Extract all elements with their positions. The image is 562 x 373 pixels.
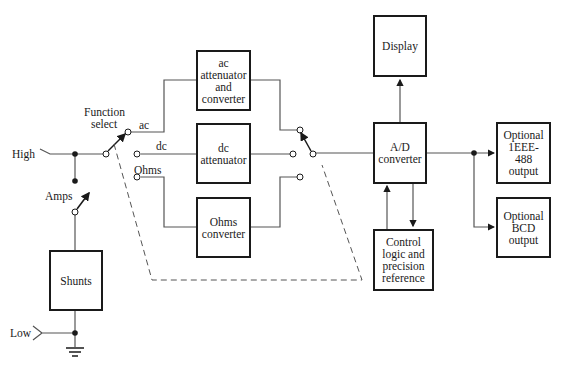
ac-path-label: ac xyxy=(139,119,149,131)
dc-path-label: dc xyxy=(156,140,167,152)
high-junction-dot xyxy=(72,151,78,157)
block-text: and xyxy=(201,81,247,93)
display-block: Display xyxy=(373,15,427,77)
amps-switch-pivot xyxy=(72,209,78,215)
low-input-lead xyxy=(33,326,75,340)
wiring-layer xyxy=(0,0,562,373)
block-text: attenuator xyxy=(201,69,247,81)
block-text: converter xyxy=(378,153,421,165)
control-logic-block: Control logic and precision reference xyxy=(373,229,434,291)
ieee-488-output-block: Optional 1EEE- 488 output xyxy=(496,122,551,184)
label-line: Function xyxy=(84,106,124,118)
block-text: dc xyxy=(201,142,247,154)
block-text: 1EEE- xyxy=(503,141,543,153)
block-text: attenuator xyxy=(201,154,247,166)
output-select-blade xyxy=(301,133,311,151)
block-text: Optional xyxy=(503,129,543,141)
block-text: Shunts xyxy=(60,275,91,287)
function-select-blade xyxy=(108,134,125,151)
block-text: output xyxy=(503,165,543,177)
amps-contact-dot xyxy=(72,178,78,184)
block-text: converter xyxy=(201,93,247,105)
block-text: A/D xyxy=(378,141,421,153)
block-text: ac xyxy=(201,57,247,69)
low-junction-dot xyxy=(72,330,78,336)
block-text: Optional xyxy=(503,210,543,222)
block-text: Display xyxy=(382,40,418,52)
amps-switch-blade xyxy=(77,193,89,209)
block-text: output xyxy=(503,234,543,246)
block-text: converter xyxy=(202,228,245,240)
block-text: precision xyxy=(382,260,425,272)
function-select-pivot xyxy=(103,151,109,157)
block-text: Ohms xyxy=(202,216,245,228)
amps-label: Amps xyxy=(45,190,72,202)
block-text: BCD xyxy=(503,222,543,234)
ohms-converter-block: Ohms converter xyxy=(196,197,251,258)
high-input-lead xyxy=(40,149,103,154)
output-select-pivot xyxy=(310,151,316,157)
label-line: select xyxy=(84,118,124,130)
block-text: logic and xyxy=(382,248,425,260)
ground-icon xyxy=(66,348,84,356)
function-select-label: Function select xyxy=(84,106,124,130)
ac-attenuator-converter-block: ac attenuator and converter xyxy=(196,50,251,111)
block-text: Control xyxy=(382,236,425,248)
output-junction-dot xyxy=(471,150,477,156)
ad-converter-block: A/D converter xyxy=(373,122,427,184)
bcd-output-block: Optional BCD output xyxy=(496,197,551,258)
block-text: 488 xyxy=(503,153,543,165)
dc-attenuator-block: dc attenuator xyxy=(196,123,251,184)
ohms-path-label: Ohms xyxy=(134,164,161,176)
shunts-block: Shunts xyxy=(49,250,103,311)
block-text: reference xyxy=(382,272,425,284)
low-input-label: Low xyxy=(10,327,31,339)
high-input-label: High xyxy=(12,148,35,160)
